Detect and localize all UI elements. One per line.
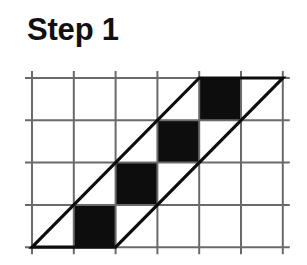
staircase-parallelogram-diagram (0, 0, 307, 265)
filled-cell (199, 78, 241, 120)
filled-cell (74, 205, 116, 247)
figure-container: Step 1 (0, 0, 307, 265)
filled-cell (157, 120, 199, 162)
filled-cell (116, 163, 158, 205)
grid-lines-group (25, 71, 290, 254)
